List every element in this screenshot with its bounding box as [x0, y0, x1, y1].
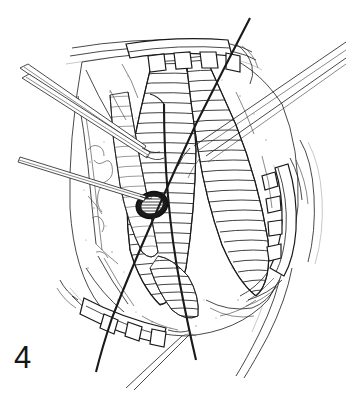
surgical-illustration [0, 0, 347, 396]
figure-number-label: 4 [14, 341, 31, 375]
figure-container: 4 [0, 0, 347, 396]
